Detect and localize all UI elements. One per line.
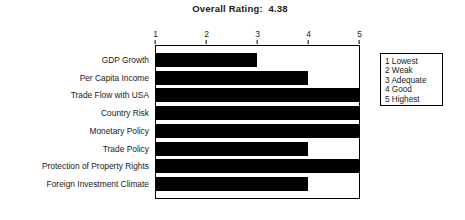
- bar: [156, 142, 308, 156]
- bar: [156, 159, 359, 173]
- legend-entry: 3 Adequate: [385, 76, 442, 85]
- bars-layer: [0, 0, 465, 220]
- legend-entry: 5 Highest: [385, 95, 442, 104]
- legend: 1 Lowest2 Weak3 Adequate4 Good5 Highest: [380, 53, 443, 106]
- legend-entry: 1 Lowest: [385, 57, 442, 66]
- bar: [156, 177, 308, 191]
- bar: [156, 53, 257, 67]
- bar: [156, 106, 359, 120]
- bar: [156, 71, 308, 85]
- bar: [156, 124, 359, 138]
- bar: [156, 88, 359, 102]
- legend-entry: 2 Weak: [385, 66, 442, 75]
- legend-entry: 4 Good: [385, 85, 442, 94]
